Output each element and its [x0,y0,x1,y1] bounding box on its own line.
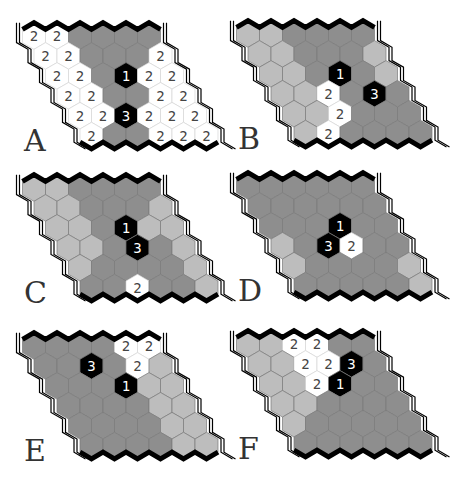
board-label: E [24,436,46,466]
hex-cell-label: 2 [324,356,332,372]
hex-cell-label: 2 [324,86,332,102]
hex-cell-label: 2 [41,48,49,64]
hex-cell-label: 2 [156,88,164,104]
hex-cell-label: 2 [122,338,130,354]
board-label: D [238,276,262,306]
hex-cell-label: 1 [122,378,130,394]
hex-cells: 222222212222222232222222 [23,23,219,149]
hex-cell-label: 2 [179,88,187,104]
edge-bottom [80,142,218,149]
hex-cell-label: 1 [122,68,130,84]
hex-cell-label: 2 [168,68,176,84]
board-label: A [24,126,46,156]
hex-board-c: 132 C [0,166,235,328]
hex-cell-label: 3 [370,86,378,102]
board-label: F [238,434,259,464]
hex-cell-label: 2 [53,68,61,84]
hex-cell-label: 2 [76,108,84,124]
hex-cell-label: 2 [53,28,61,44]
hex-cell-label: 2 [313,376,321,392]
hex-cell-label: 2 [301,356,309,372]
hex-cells: 2222321 [237,331,433,457]
hex-cell-label: 2 [156,48,164,64]
edge-top [23,23,161,30]
hex-cell-label: 2 [347,238,355,254]
hex-cell-label: 1 [336,376,344,392]
hex-cell-label: 2 [168,108,176,124]
hex-cell-label: 2 [313,336,321,352]
hex-cell-label: 2 [145,108,153,124]
hex-cell-label: 2 [133,280,141,296]
hex-cell-label: 2 [87,88,95,104]
hex-cell-label: 2 [290,336,298,352]
cropped-caption-fragment [0,0,470,8]
hex-cell-label: 2 [156,128,164,144]
hex-cell-label: 2 [191,108,199,124]
hex-cell-label: 2 [336,106,344,122]
hex-cell-label: 2 [145,68,153,84]
hex-board-e: 22321 E [0,324,235,486]
hex-cell-label: 3 [324,238,332,254]
edge-bottom [294,450,432,457]
hex-cells: 22321 [23,333,219,459]
hex-cell-label: 2 [145,338,153,354]
hex-cell-label: 2 [133,358,141,374]
hex-cells: 132 [23,175,219,301]
hex-cells: 12322 [237,21,433,147]
hex-cell-label: 3 [347,356,355,372]
hex-board-f: 2222321 F [214,322,449,484]
edge-top [237,173,375,180]
hex-board-d: 132 D [214,164,449,326]
edge-bottom [80,452,218,459]
edge-bottom [294,292,432,299]
board-label: B [238,124,260,154]
hex-cell-label: 2 [202,128,210,144]
hex-cell-label: 2 [99,108,107,124]
hex-cell-label: 2 [64,88,72,104]
edge-top [237,331,375,338]
hex-cell-label: 2 [76,68,84,84]
hex-cell-label: 3 [87,358,95,374]
hex-cell-label: 1 [336,218,344,234]
hex-cell-label: 2 [64,48,72,64]
edge-top [23,333,161,340]
hex-board-a: 222222212222222232222222 A [0,14,235,176]
hex-cell-label: 1 [336,66,344,82]
board-label: C [24,278,47,308]
hex-cell-label: 2 [30,28,38,44]
edge-bottom [294,140,432,147]
hex-cell-label: 2 [324,126,332,142]
edge-top [237,21,375,28]
hex-cell-label: 2 [87,128,95,144]
hex-cell-label: 3 [122,108,130,124]
edge-bottom [80,294,218,301]
hex-cell-label: 2 [179,128,187,144]
edge-top [23,175,161,182]
hex-cell-label: 3 [133,240,141,256]
hex-cell-label: 1 [122,220,130,236]
hex-cells: 132 [237,173,433,299]
hex-board-b: 12322 B [214,12,449,174]
